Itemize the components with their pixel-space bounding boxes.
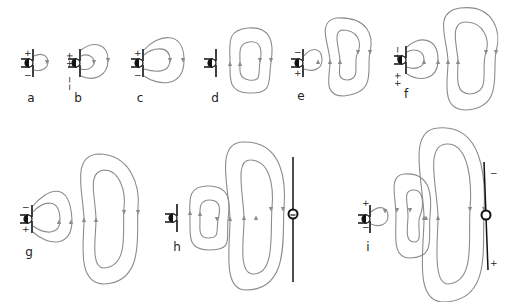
- field-arrow-icon: [94, 218, 98, 223]
- field-line: [225, 142, 284, 290]
- field-line: [304, 50, 322, 71]
- field-arrow-icon: [198, 212, 202, 217]
- field-arrow-icon: [254, 216, 258, 221]
- field-arrow-icon: [316, 60, 320, 65]
- panel-label: e: [297, 89, 304, 103]
- panel-label: i: [366, 240, 369, 254]
- receiver-bottom-sign: +: [490, 258, 498, 268]
- panel-label: a: [27, 91, 34, 105]
- field-line: [144, 49, 170, 71]
- field-line: [33, 203, 60, 232]
- field-line: [407, 190, 423, 242]
- field-arrow-icon: [368, 50, 372, 55]
- charge-bottom-sign: ++: [393, 72, 403, 87]
- charge-bottom-sign: +: [294, 68, 302, 78]
- field-arrow-icon: [269, 58, 273, 63]
- field-line: [325, 18, 371, 96]
- charge-bottom-sign: +: [22, 224, 30, 234]
- field-line: [93, 170, 124, 268]
- field-arrow-icon: [494, 50, 498, 55]
- field-line: [81, 55, 94, 70]
- charge-top-sign: +: [24, 48, 32, 58]
- panel-a: + − a: [21, 48, 49, 105]
- receiver-meter-icon: [482, 211, 491, 220]
- charge-top-sign: +: [134, 48, 142, 58]
- field-line: [394, 174, 431, 258]
- dipole-radiation-diagram: + − a ++ −− b + − c d: [0, 0, 506, 302]
- field-arrow-icon: [468, 207, 472, 212]
- panel-e: − + e: [291, 18, 372, 103]
- field-arrow-icon: [328, 60, 332, 65]
- field-arrow-icon: [446, 60, 450, 65]
- panel-f: −− ++ f: [393, 8, 498, 110]
- field-line: [81, 154, 139, 284]
- field-line: [443, 8, 497, 110]
- field-line: [434, 144, 471, 284]
- panel-b: ++ −− b: [65, 45, 110, 105]
- panel-label: h: [173, 240, 181, 254]
- field-arrow-icon: [484, 50, 488, 55]
- panel-i: + − − + i: [358, 128, 498, 302]
- panel-h: h: [165, 142, 298, 290]
- field-arrow-icon: [168, 58, 172, 63]
- field-line: [407, 50, 424, 68]
- panel-label: g: [25, 245, 33, 259]
- field-line: [34, 54, 48, 70]
- field-line: [190, 186, 229, 250]
- charge-top-sign: −: [294, 47, 302, 57]
- charge-top-sign: −: [22, 202, 30, 212]
- dipole-source-icon: [204, 49, 216, 77]
- field-arrow-icon: [281, 207, 285, 212]
- field-arrow-icon: [456, 60, 460, 65]
- field-arrow-icon: [338, 60, 342, 65]
- field-line: [407, 40, 438, 78]
- dipole-source-icon: [165, 204, 177, 232]
- field-arrow-icon: [136, 210, 140, 215]
- field-arrow-icon: [122, 210, 126, 215]
- receiver-meter-icon: [289, 210, 298, 219]
- panel-label: b: [74, 91, 82, 105]
- field-arrow-icon: [106, 58, 110, 63]
- charge-bottom-sign: −: [24, 70, 32, 80]
- field-arrow-icon: [238, 62, 242, 67]
- field-arrow-icon: [356, 50, 360, 55]
- field-arrow-icon: [92, 60, 96, 65]
- panel-c: + − c: [131, 38, 185, 105]
- panel-label: d: [211, 91, 219, 105]
- field-arrow-icon: [188, 211, 192, 216]
- field-line: [337, 30, 359, 80]
- field-line: [33, 191, 72, 242]
- charge-top-sign: +: [362, 198, 370, 208]
- field-arrow-icon: [436, 60, 440, 65]
- field-arrow-icon: [408, 208, 412, 213]
- receiver-top-sign: −: [490, 168, 498, 178]
- charge-top-sign: −−: [393, 46, 403, 61]
- field-arrow-icon: [242, 216, 246, 221]
- charge-bottom-sign: −: [134, 70, 142, 80]
- field-arrow-icon: [228, 62, 232, 67]
- field-line: [419, 128, 484, 302]
- field-line: [455, 22, 487, 94]
- panel-g: − + g: [20, 154, 140, 284]
- field-arrow-icon: [258, 58, 262, 63]
- receiving-antenna: − +: [482, 162, 498, 270]
- field-arrow-icon: [422, 60, 426, 65]
- panel-label: c: [137, 91, 144, 105]
- field-line: [240, 42, 261, 81]
- panel-label: f: [404, 87, 409, 101]
- field-arrow-icon: [82, 218, 86, 223]
- field-arrow-icon: [269, 207, 273, 212]
- receiving-antenna: [289, 157, 298, 282]
- charge-bottom-sign: −: [362, 222, 370, 232]
- charge-top-sign: ++: [65, 52, 75, 67]
- field-arrow-icon: [436, 216, 440, 221]
- panel-d: d: [204, 28, 273, 105]
- field-line: [144, 38, 184, 83]
- charge-bottom-sign: −−: [65, 76, 75, 91]
- field-line: [230, 28, 272, 93]
